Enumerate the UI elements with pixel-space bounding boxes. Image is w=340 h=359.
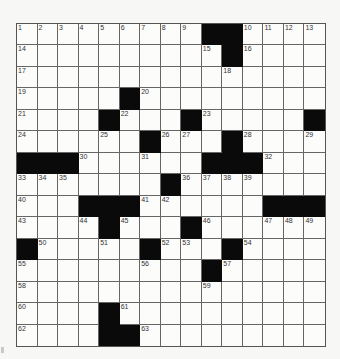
- grid-cell[interactable]: [181, 282, 202, 303]
- grid-cell[interactable]: [222, 88, 243, 109]
- grid-cell[interactable]: [140, 110, 161, 131]
- grid-cell[interactable]: [263, 174, 284, 195]
- grid-cell[interactable]: 46: [202, 217, 223, 238]
- grid-cell[interactable]: 50: [38, 239, 59, 260]
- grid-cell[interactable]: [38, 260, 59, 281]
- grid-cell[interactable]: [161, 45, 182, 66]
- grid-cell[interactable]: [79, 67, 100, 88]
- grid-cell[interactable]: [161, 67, 182, 88]
- grid-cell[interactable]: [38, 217, 59, 238]
- grid-cell[interactable]: [181, 153, 202, 174]
- grid-cell[interactable]: [304, 88, 325, 109]
- grid-cell[interactable]: [140, 67, 161, 88]
- grid-cell[interactable]: [99, 67, 120, 88]
- grid-cell[interactable]: 18: [222, 67, 243, 88]
- grid-cell[interactable]: [263, 239, 284, 260]
- grid-cell[interactable]: 54: [243, 239, 264, 260]
- grid-cell[interactable]: 39: [243, 174, 264, 195]
- grid-cell[interactable]: [243, 67, 264, 88]
- grid-cell[interactable]: 1: [17, 24, 38, 45]
- grid-cell[interactable]: [202, 131, 223, 152]
- grid-cell[interactable]: [243, 325, 264, 346]
- grid-cell[interactable]: [243, 88, 264, 109]
- grid-cell[interactable]: [202, 196, 223, 217]
- grid-cell[interactable]: 22: [120, 110, 141, 131]
- grid-cell[interactable]: 31: [140, 153, 161, 174]
- grid-cell[interactable]: [161, 325, 182, 346]
- grid-cell[interactable]: [120, 131, 141, 152]
- grid-cell[interactable]: [79, 239, 100, 260]
- grid-cell[interactable]: [243, 217, 264, 238]
- grid-cell[interactable]: 61: [120, 303, 141, 324]
- grid-cell[interactable]: [263, 303, 284, 324]
- grid-cell[interactable]: 37: [202, 174, 223, 195]
- grid-cell[interactable]: [304, 282, 325, 303]
- grid-cell[interactable]: [58, 45, 79, 66]
- grid-cell[interactable]: [120, 45, 141, 66]
- grid-cell[interactable]: 28: [243, 131, 264, 152]
- grid-cell[interactable]: [140, 217, 161, 238]
- grid-cell[interactable]: 51: [99, 239, 120, 260]
- grid-cell[interactable]: [304, 153, 325, 174]
- grid-cell[interactable]: [263, 67, 284, 88]
- grid-cell[interactable]: 11: [263, 24, 284, 45]
- grid-cell[interactable]: 41: [140, 196, 161, 217]
- grid-cell[interactable]: [202, 325, 223, 346]
- grid-cell[interactable]: 4: [79, 24, 100, 45]
- grid-cell[interactable]: [284, 260, 305, 281]
- grid-cell[interactable]: 38: [222, 174, 243, 195]
- grid-cell[interactable]: [79, 282, 100, 303]
- grid-cell[interactable]: [79, 174, 100, 195]
- grid-cell[interactable]: [120, 174, 141, 195]
- grid-cell[interactable]: [120, 282, 141, 303]
- grid-cell[interactable]: [38, 282, 59, 303]
- grid-cell[interactable]: [120, 239, 141, 260]
- grid-cell[interactable]: 49: [304, 217, 325, 238]
- grid-cell[interactable]: [263, 110, 284, 131]
- grid-cell[interactable]: 20: [140, 88, 161, 109]
- grid-cell[interactable]: [161, 282, 182, 303]
- grid-cell[interactable]: [181, 88, 202, 109]
- grid-cell[interactable]: 15: [202, 45, 223, 66]
- grid-cell[interactable]: [161, 217, 182, 238]
- grid-cell[interactable]: [140, 174, 161, 195]
- grid-cell[interactable]: [243, 282, 264, 303]
- grid-cell[interactable]: [79, 131, 100, 152]
- grid-cell[interactable]: 58: [17, 282, 38, 303]
- grid-cell[interactable]: [161, 88, 182, 109]
- grid-cell[interactable]: 35: [58, 174, 79, 195]
- grid-cell[interactable]: [284, 325, 305, 346]
- grid-cell[interactable]: [79, 88, 100, 109]
- grid-cell[interactable]: [120, 153, 141, 174]
- grid-cell[interactable]: [263, 260, 284, 281]
- grid-cell[interactable]: [79, 260, 100, 281]
- grid-cell[interactable]: [58, 110, 79, 131]
- grid-cell[interactable]: 3: [58, 24, 79, 45]
- grid-cell[interactable]: 16: [243, 45, 264, 66]
- grid-cell[interactable]: [181, 260, 202, 281]
- grid-cell[interactable]: [284, 239, 305, 260]
- grid-cell[interactable]: [284, 174, 305, 195]
- grid-cell[interactable]: [284, 110, 305, 131]
- grid-cell[interactable]: [222, 282, 243, 303]
- grid-cell[interactable]: [263, 131, 284, 152]
- grid-cell[interactable]: [38, 110, 59, 131]
- grid-cell[interactable]: 59: [202, 282, 223, 303]
- grid-cell[interactable]: [140, 45, 161, 66]
- grid-cell[interactable]: [99, 260, 120, 281]
- grid-cell[interactable]: 53: [181, 239, 202, 260]
- grid-cell[interactable]: [58, 260, 79, 281]
- grid-cell[interactable]: [99, 153, 120, 174]
- grid-cell[interactable]: 25: [99, 131, 120, 152]
- grid-cell[interactable]: [243, 110, 264, 131]
- grid-cell[interactable]: 2: [38, 24, 59, 45]
- grid-cell[interactable]: 36: [181, 174, 202, 195]
- grid-cell[interactable]: 24: [17, 131, 38, 152]
- grid-cell[interactable]: [99, 282, 120, 303]
- grid-cell[interactable]: [140, 303, 161, 324]
- grid-cell[interactable]: [140, 282, 161, 303]
- grid-cell[interactable]: [284, 45, 305, 66]
- grid-cell[interactable]: [222, 325, 243, 346]
- grid-cell[interactable]: [304, 174, 325, 195]
- grid-cell[interactable]: [181, 196, 202, 217]
